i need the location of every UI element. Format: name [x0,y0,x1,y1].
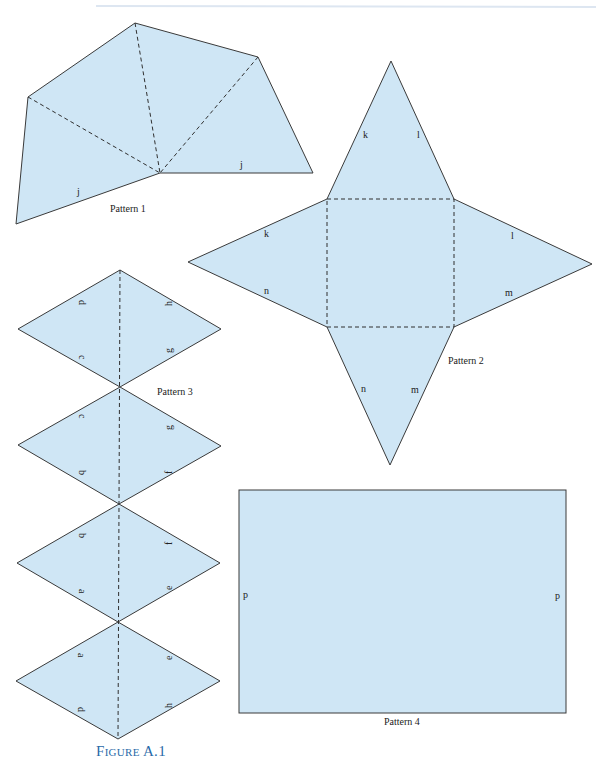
edge-label: l [417,129,420,140]
edge-label: h [163,301,174,306]
top-rule [96,6,596,7]
pattern-1-outline [16,23,313,224]
pattern-4-caption: Pattern 4 [384,716,420,727]
edge-label: d [76,707,87,712]
edge-label: l [511,230,514,241]
pattern-3: d c h g c b g f b a f e a d e h Pattern … [16,270,221,739]
edge-label: c [77,414,88,419]
pattern-1-caption: Pattern 1 [110,203,146,214]
edge-label: d [77,300,88,305]
edge-label: a [77,589,88,594]
edge-label: k [363,129,368,140]
edge-label: g [163,348,174,353]
pattern-4: p p Pattern 4 [239,490,566,727]
edge-label: j [239,159,243,170]
edge-label: h [163,703,174,708]
edge-label: m [411,384,419,395]
edge-label: n [264,285,269,296]
figure-canvas: j j Pattern 1 k l k l n m n m Pattern 2 … [0,0,602,760]
pattern-1: j j Pattern 1 [16,23,313,224]
edge-label: k [264,228,269,239]
rhombus [17,504,220,622]
edge-label: p [555,590,560,601]
pattern-4-rectangle [239,490,566,713]
edge-label: j [76,186,80,197]
edge-label: e [163,585,174,590]
edge-label: p [243,589,248,600]
pattern-3-caption: Pattern 3 [157,386,193,397]
figure-caption: Figure A.1 [96,743,166,759]
edge-label: b [77,533,88,538]
pattern-2-caption: Pattern 2 [448,355,484,366]
edge-label: c [77,355,88,360]
edge-label: b [77,470,88,475]
edge-label: g [163,425,174,430]
edge-label: m [505,287,513,298]
edge-label: e [163,655,174,660]
edge-label: a [76,653,87,658]
edge-label: n [361,383,366,394]
